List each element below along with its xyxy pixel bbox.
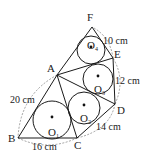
label-o1: O1 [48,126,59,139]
vertex-label-b: B [8,132,15,144]
vertex-label-e: E [114,48,121,60]
center-dot-o1 [51,116,54,119]
label-o3: O3 [94,83,105,96]
length-label: 20 cm [10,94,35,105]
length-label: 16 cm [32,141,57,152]
vertex-label-f: F [87,11,93,23]
length-label: 10 cm [103,35,128,46]
vertex-label-a: A [47,62,55,74]
edge-ad [57,75,115,104]
label-o4: O4 [87,39,98,52]
center-dot-o2 [83,104,86,107]
vertex-label-c: C [74,139,81,151]
center-dot-o3 [97,75,100,78]
geometry-diagram: O1O2O3O4FEADCB10 cm12 cm20 cm14 cm16 cm [0,0,152,159]
label-o2: O2 [80,112,91,125]
length-label: 12 cm [115,75,140,86]
length-label: 14 cm [96,121,121,132]
labels: O1O2O3O4FEADCB10 cm12 cm20 cm14 cm16 cm [8,11,140,152]
vertex-label-d: D [117,104,125,116]
edge-af [57,27,92,75]
edge-ac [57,75,77,138]
